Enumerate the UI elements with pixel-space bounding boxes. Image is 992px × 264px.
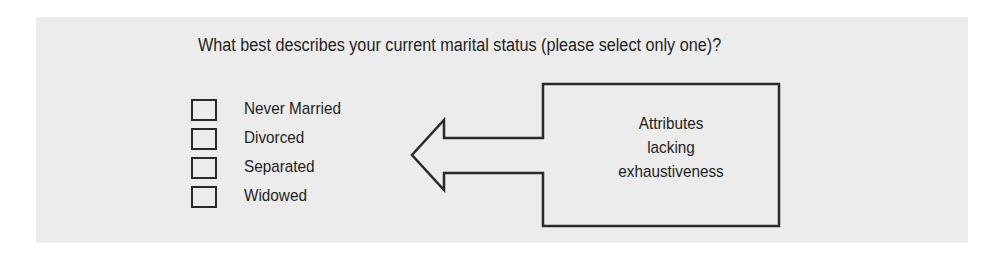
callout-line: Attributes (595, 112, 748, 136)
callout-arrow-icon (0, 0, 992, 264)
callout-line: exhaustiveness (595, 160, 748, 184)
callout-text: Attributes lacking exhaustiveness (595, 112, 748, 184)
callout-line: lacking (595, 136, 748, 160)
